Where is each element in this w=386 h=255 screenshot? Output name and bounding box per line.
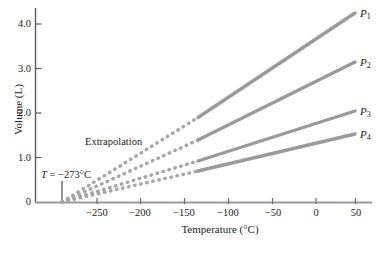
y-tick-label-0: 0 <box>3 197 31 208</box>
series-label-p4-base: P <box>360 128 367 140</box>
series-label-p1-base: P <box>360 7 367 19</box>
x-tick-label-neg200: −200 <box>115 208 165 219</box>
absolute-zero-value: = −273°C <box>47 169 91 180</box>
series-line-p1 <box>62 13 355 202</box>
x-tick-label-50: 50 <box>331 208 381 219</box>
series-label-p2-base: P <box>360 56 367 68</box>
p1-extrapolation-dotted <box>62 118 198 203</box>
series-label-p1: P1 <box>360 8 371 21</box>
series-line-p3 <box>62 111 355 202</box>
y-axis-title: Volume (L) <box>13 70 24 150</box>
x-tick-label-neg100: −100 <box>203 208 253 219</box>
series-label-p2-sub: 2 <box>367 61 371 70</box>
y-tick-marks <box>36 24 42 158</box>
absolute-zero-annotation: T = −273°C <box>41 170 91 181</box>
x-tick-label-neg150: −150 <box>159 208 209 219</box>
series-label-p2: P2 <box>360 57 371 70</box>
extrapolation-annotation: Extrapolation <box>85 137 142 148</box>
y-tick-label-1: 1.0 <box>3 153 31 164</box>
series-label-p3-sub: 3 <box>367 110 371 119</box>
series-line-p2 <box>62 62 355 202</box>
series-label-p4-sub: 4 <box>367 133 371 142</box>
volume-temperature-chart: 4.0 3.0 2.0 1.0 0 −250 −200 −150 −100 −5… <box>0 0 386 255</box>
p3-extrapolation-dotted <box>62 161 198 202</box>
series-label-p3: P3 <box>360 106 371 119</box>
series-label-p3-base: P <box>360 105 367 117</box>
series-label-p4: P4 <box>360 129 371 142</box>
series-label-p1-sub: 1 <box>367 12 371 21</box>
y-tick-label-4: 4.0 <box>3 19 31 30</box>
x-axis-title: Temperature (°C) <box>150 224 290 235</box>
